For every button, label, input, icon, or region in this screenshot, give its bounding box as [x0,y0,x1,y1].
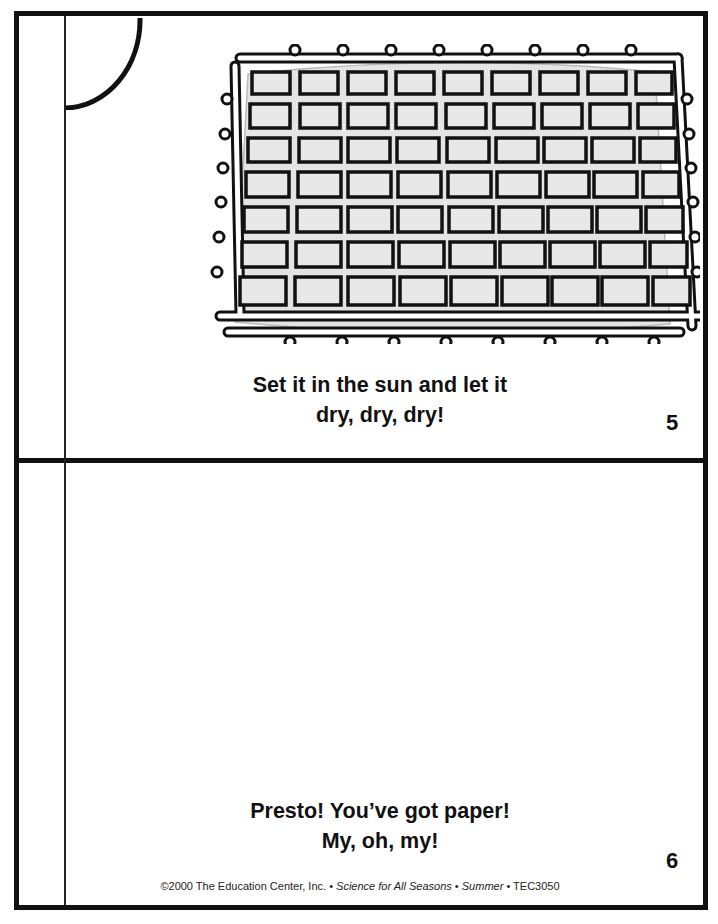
separator: • [452,880,462,892]
page-number: 6 [652,848,692,874]
caption-line: Set it in the sun and let it [140,370,620,400]
corner-arc-decoration [64,16,146,110]
season-label: Summer [462,880,504,892]
page-6-caption: Presto! You’ve got paper! My, oh, my! [140,796,620,856]
caption-line: My, oh, my! [140,826,620,856]
book-title: Science for All Seasons [336,880,452,892]
page-number: 5 [652,410,692,436]
caption-line: dry, dry, dry! [140,400,620,430]
copyright-credit: ©2000 The Education Center, Inc. • Scien… [60,880,660,892]
drying-screen-illustration [200,44,700,344]
panel-divider [14,458,708,463]
caption-line: Presto! You’ve got paper! [140,796,620,826]
copyright-text: ©2000 The Education Center, Inc. • [160,880,336,892]
product-code: • TEC3050 [503,880,559,892]
binding-line [64,16,66,905]
page-5-caption: Set it in the sun and let it dry, dry, d… [140,370,620,430]
